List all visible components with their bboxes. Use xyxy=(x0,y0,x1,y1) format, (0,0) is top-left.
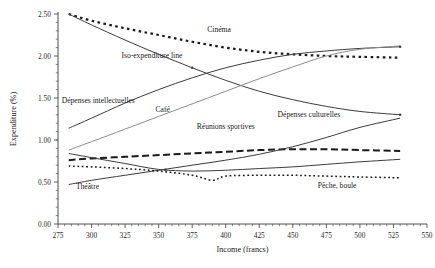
data-point-marker xyxy=(399,46,401,48)
series-label-d-penses-intellectuelles: Dépenses intellectuelles xyxy=(62,96,135,105)
series-label-iso-expenditure-line: Iso-expenditure line xyxy=(121,51,183,60)
y-axis-title: Expenditure (%) xyxy=(9,92,18,147)
x-axis-title: Income (francs) xyxy=(216,245,268,254)
x-tick-label: 400 xyxy=(220,231,231,240)
chart-container: 0.000.501.001.502.002.502753003253503754… xyxy=(0,0,435,268)
series-label-d-penses-culturelles: Dépenses culturelles xyxy=(278,110,341,119)
x-tick-label: 275 xyxy=(52,231,63,240)
series-label-p-che-boule: Pêche, boule xyxy=(318,181,357,190)
series-label-caf: Café xyxy=(155,105,170,114)
x-tick-label: 475 xyxy=(321,231,332,240)
x-tick-label: 300 xyxy=(86,231,97,240)
x-tick-label: 525 xyxy=(388,231,399,240)
series-label-r-unions-sportives: Réunions sportives xyxy=(197,122,255,131)
data-point-marker xyxy=(191,67,193,69)
x-tick-label: 550 xyxy=(421,231,432,240)
series-label-th-tre: Théâtre xyxy=(76,182,100,191)
data-point-marker xyxy=(399,114,401,116)
x-tick-label: 425 xyxy=(254,231,265,240)
series-labels: CinémaIso-expenditure lineDépenses intel… xyxy=(62,25,357,190)
x-tick-label: 450 xyxy=(287,231,298,240)
x-tick-label: 350 xyxy=(153,231,164,240)
x-tick-label: 325 xyxy=(120,231,131,240)
line-chart: 0.000.501.001.502.002.502753003253503754… xyxy=(0,0,435,268)
series-label-cin-ma: Cinéma xyxy=(207,25,231,34)
x-tick-label: 500 xyxy=(354,231,365,240)
y-tick-label: 2.00 xyxy=(38,52,51,61)
y-tick-label: 0.50 xyxy=(38,178,51,187)
y-tick-label: 2.50 xyxy=(38,10,51,19)
y-tick-label: 0.00 xyxy=(38,220,51,229)
y-tick-label: 1.50 xyxy=(38,94,51,103)
y-tick-label: 1.00 xyxy=(38,136,51,145)
series-line-p-che-boule xyxy=(69,166,400,180)
data-point-marker xyxy=(164,169,166,171)
x-tick-label: 375 xyxy=(187,231,198,240)
